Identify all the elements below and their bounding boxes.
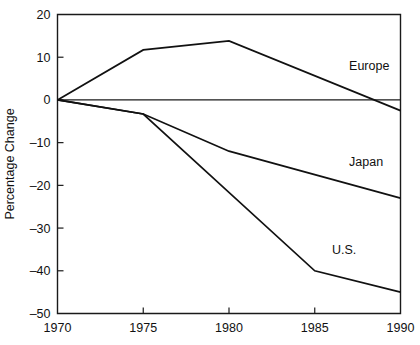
line-chart: 20100–10–20–30–40–50 1970197519801985199…: [0, 0, 420, 345]
chart-canvas: 20100–10–20–30–40–50 1970197519801985199…: [0, 0, 420, 345]
series-label-us: U.S.: [332, 243, 356, 257]
x-tick-label: 1970: [44, 321, 72, 335]
x-tick-label: 1975: [129, 321, 157, 335]
x-tick-label: 1980: [215, 321, 243, 335]
series-label-europe: Europe: [349, 59, 389, 73]
y-axis-title: Percentage Change: [3, 108, 17, 219]
y-tick-label: 0: [44, 93, 51, 107]
y-tick-label: 10: [37, 51, 51, 65]
y-tick-label: 20: [37, 8, 51, 22]
y-tick-label: –40: [30, 264, 51, 278]
x-tick-label: 1985: [301, 321, 329, 335]
y-tick-label: –50: [30, 307, 51, 321]
series-label-japan: Japan: [349, 155, 383, 169]
x-tick-label: 1990: [387, 321, 415, 335]
chart-background: [0, 0, 420, 345]
y-tick-label: –10: [30, 136, 51, 150]
y-tick-label: –30: [30, 222, 51, 236]
y-tick-label: –20: [30, 179, 51, 193]
